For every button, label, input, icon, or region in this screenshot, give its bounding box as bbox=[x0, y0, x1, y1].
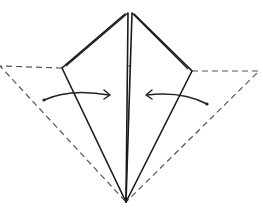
right-kite-flap bbox=[126, 14, 192, 202]
origami-diagram bbox=[0, 0, 263, 208]
right-flap-edge-double bbox=[132, 13, 188, 69]
left-unfolded-flap-outline bbox=[0, 66, 126, 202]
left-flap-edge-double bbox=[66, 13, 128, 66]
right-unfolded-flap-outline bbox=[126, 71, 259, 202]
